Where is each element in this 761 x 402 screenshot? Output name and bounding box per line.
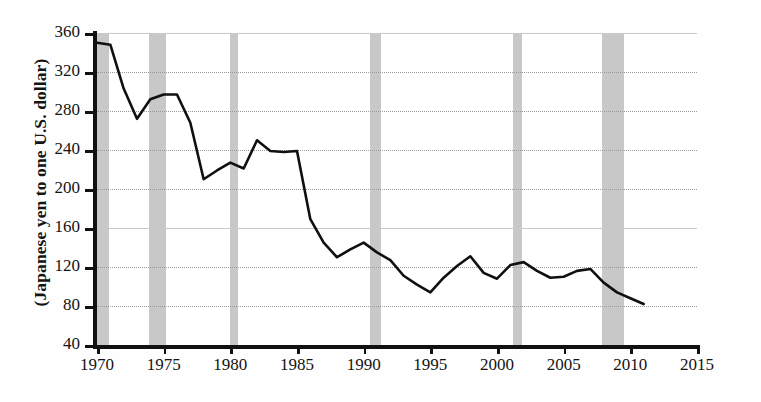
y-tick-40 — [85, 345, 97, 348]
x-tick-label-1980: 1980 — [195, 355, 265, 375]
x-tick-1995 — [430, 345, 433, 354]
x-tick-1975 — [164, 345, 167, 354]
x-tick-label-1990: 1990 — [329, 355, 399, 375]
x-tick-1990 — [364, 345, 367, 354]
series-yen-per-dollar — [97, 33, 697, 345]
x-tick-label-1985: 1985 — [262, 355, 332, 375]
y-tick-160 — [85, 228, 97, 231]
x-tick-1980 — [230, 345, 233, 354]
y-tick-240 — [85, 150, 97, 153]
y-tick-200 — [85, 189, 97, 192]
x-tick-2000 — [497, 345, 500, 354]
y-tick-80 — [85, 306, 97, 309]
x-tick-1985 — [297, 345, 300, 354]
y-tick-label-80: 80 — [38, 295, 80, 315]
y-tick-label-120: 120 — [38, 256, 80, 276]
x-tick-2010 — [630, 345, 633, 354]
x-axis-line — [93, 345, 697, 349]
x-tick-label-1995: 1995 — [395, 355, 465, 375]
x-tick-label-2005: 2005 — [529, 355, 599, 375]
y-tick-label-40: 40 — [38, 334, 80, 354]
y-tick-label-160: 160 — [38, 217, 80, 237]
x-tick-label-1970: 1970 — [62, 355, 132, 375]
y-tick-360 — [85, 33, 97, 36]
x-tick-2015 — [697, 345, 700, 354]
plot-area — [97, 33, 697, 345]
x-tick-label-2010: 2010 — [595, 355, 665, 375]
y-tick-label-360: 360 — [38, 22, 80, 42]
x-tick-label-1975: 1975 — [129, 355, 199, 375]
y-tick-label-240: 240 — [38, 139, 80, 159]
y-tick-280 — [85, 111, 97, 114]
x-tick-label-2000: 2000 — [462, 355, 532, 375]
y-tick-120 — [85, 267, 97, 270]
y-tick-label-320: 320 — [38, 61, 80, 81]
y-tick-label-200: 200 — [38, 178, 80, 198]
chart-figure: (Japanese yen to one U.S. dollar) 408012… — [0, 0, 761, 402]
x-tick-label-2015: 2015 — [662, 355, 732, 375]
x-tick-1970 — [97, 345, 100, 354]
x-tick-2005 — [564, 345, 567, 354]
y-tick-label-280: 280 — [38, 100, 80, 120]
y-tick-320 — [85, 72, 97, 75]
